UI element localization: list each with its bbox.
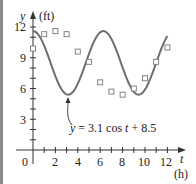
data-point-square-icon xyxy=(42,32,47,37)
x-tick-label-8: 8 xyxy=(119,155,125,169)
data-point-square-icon xyxy=(154,59,159,64)
x-axis-label: t xyxy=(180,152,184,166)
data-point-square-icon xyxy=(98,80,103,85)
data-point-square-icon xyxy=(165,45,170,50)
annotation-arrowhead-icon xyxy=(66,97,71,103)
x-tick-label-10: 10 xyxy=(138,155,150,169)
chart: y (ft) 12 9 6 3 0 2 4 6 8 10 12 t (h) y … xyxy=(0,0,196,184)
x-tick-label-12: 12 xyxy=(160,155,172,169)
y-unit-label: (ft) xyxy=(39,9,54,23)
y-tick-label-3: 3 xyxy=(20,113,26,127)
data-point-square-icon xyxy=(120,92,125,97)
x-tick-label-2: 2 xyxy=(52,155,58,169)
data-point-square-icon xyxy=(75,49,80,54)
data-point-square-icon xyxy=(87,59,92,64)
x-unit-label: (h) xyxy=(174,167,188,181)
data-point-square-icon xyxy=(131,86,136,91)
x-tick-label-6: 6 xyxy=(97,155,103,169)
y-tick-label-6: 6 xyxy=(20,82,26,96)
data-point-square-icon xyxy=(53,29,58,34)
origin-label: 0 xyxy=(22,155,28,169)
y-tick-label-12: 12 xyxy=(14,20,26,34)
data-point-square-icon xyxy=(143,76,148,81)
y-axis-arrow-icon xyxy=(30,11,36,19)
data-point-square-icon xyxy=(31,46,36,51)
data-point-square-icon xyxy=(109,89,114,94)
data-point-square-icon xyxy=(64,32,69,37)
x-tick-label-4: 4 xyxy=(75,155,81,169)
y-tick-label-9: 9 xyxy=(20,51,26,65)
equation-label: y = 3.1 cos t + 8.5 xyxy=(69,121,156,135)
